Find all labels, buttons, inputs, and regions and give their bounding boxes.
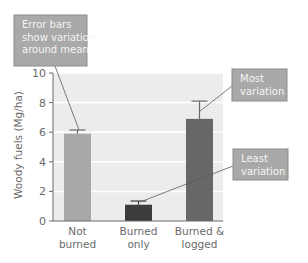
- y-tick-label: 10: [32, 67, 46, 80]
- callout-text: Error bars: [22, 19, 71, 30]
- callout-text: Most: [240, 73, 264, 84]
- category-label: only: [127, 238, 149, 250]
- y-tick-label: 0: [39, 215, 46, 228]
- callout-text: show variation: [22, 32, 95, 43]
- category-label: Not: [68, 225, 86, 237]
- x-axis-labels: NotburnedBurnedonlyBurned &logged: [59, 225, 224, 250]
- bar-1: [125, 205, 152, 221]
- y-axis-label: Woody fuels (Mg/ha): [12, 91, 24, 199]
- category-label: logged: [182, 238, 218, 250]
- y-tick-label: 8: [39, 97, 46, 110]
- callout-text: variation: [240, 86, 284, 97]
- category-label: Burned: [120, 225, 158, 237]
- y-tick-label: 4: [39, 156, 46, 169]
- y-tick-label: 6: [39, 126, 46, 139]
- callout-text: Least: [241, 153, 268, 164]
- y-tick-label: 2: [39, 185, 46, 198]
- category-label: Burned &: [175, 225, 224, 237]
- callout-text: variation: [241, 166, 285, 177]
- callout-text: around mean: [22, 44, 89, 55]
- bar-2: [186, 119, 213, 221]
- bar-0: [64, 134, 91, 221]
- category-label: burned: [59, 238, 96, 250]
- bar-chart: 0246810 NotburnedBurnedonlyBurned &logge…: [0, 0, 308, 263]
